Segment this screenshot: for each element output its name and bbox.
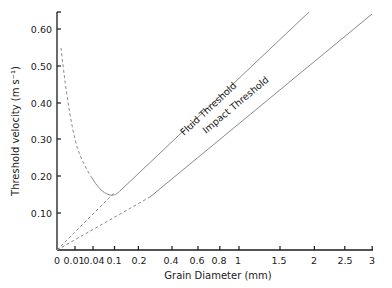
y-axis-title: Threshold velocity (m s⁻¹) [10, 66, 21, 197]
x-axis-title: Grain Diameter (mm) [164, 270, 272, 281]
x-tick-label: 3 [369, 255, 375, 266]
y-tick-label: 0.30 [31, 134, 52, 145]
x-tick-label: 0 [54, 255, 60, 266]
x-tick-label: 1.5 [271, 255, 286, 266]
x-tick-label: 0.01 [63, 255, 84, 266]
y-tick-label: 0.20 [31, 171, 52, 182]
x-tick-label: 0.6 [189, 255, 204, 266]
y-tick-label: 0.10 [31, 208, 52, 219]
y-tick-labels: 0.10 0.20 0.30 0.40 0.50 0.60 [31, 24, 52, 219]
x-tick-label: 0.8 [211, 255, 226, 266]
fluid-threshold-solid-curve [92, 178, 121, 195]
x-tick-label: 1 [235, 255, 241, 266]
impact-threshold-line [150, 14, 372, 197]
x-tick-labels: 0 0.01 0.04 0.1 0.2 0.4 0.6 0.8 1 1.5 2 … [54, 255, 375, 266]
threshold-velocity-chart: 0.10 0.20 0.30 0.40 0.50 0.60 0 0.01 0.0… [0, 0, 392, 288]
fluid-threshold-extrapolation [57, 193, 114, 250]
fluid-threshold-dashed-curve [61, 48, 92, 178]
y-tick-label: 0.40 [31, 98, 52, 109]
x-tick-label: 0.2 [131, 255, 146, 266]
x-tick-label: 0.04 [83, 255, 104, 266]
x-tick-label: 0.4 [163, 255, 178, 266]
x-tick-label: 2.5 [337, 255, 352, 266]
y-tick-label: 0.50 [31, 61, 52, 72]
y-tick-label: 0.60 [31, 24, 52, 35]
impact-threshold-dashed [57, 197, 150, 250]
x-tick-label: 2 [311, 255, 317, 266]
x-tick-label: 0.1 [106, 255, 121, 266]
